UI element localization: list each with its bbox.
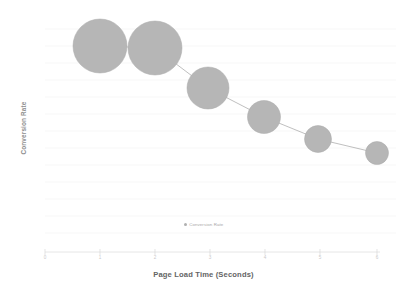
y-axis-title: Conversion Rate xyxy=(20,98,27,158)
x-axis-title: Page Load Time (Seconds) xyxy=(0,270,407,279)
x-tick-label-3: 3 xyxy=(202,255,218,260)
x-tick-label-0: 0 xyxy=(37,255,53,260)
legend-label: Conversion Rate xyxy=(189,222,223,227)
bubble-series xyxy=(73,19,389,165)
bubble-point[interactable] xyxy=(187,67,229,109)
bubble-point[interactable] xyxy=(73,19,127,73)
bubble-chart: 0 1 2 3 4 5 6 Conversion Rate Page Load … xyxy=(0,0,407,292)
x-tick-label-2: 2 xyxy=(147,255,163,260)
x-tick-label-5: 5 xyxy=(312,255,328,260)
x-tick-label-6: 6 xyxy=(369,255,385,260)
plot-area xyxy=(0,0,407,292)
bubble-point[interactable] xyxy=(128,21,182,75)
bubble-point[interactable] xyxy=(366,142,389,165)
x-tick-label-1: 1 xyxy=(92,255,108,260)
bubble-point[interactable] xyxy=(305,126,332,153)
bubble-point[interactable] xyxy=(248,101,281,134)
x-tick-label-4: 4 xyxy=(257,255,273,260)
legend-marker-icon xyxy=(184,223,187,226)
chart-legend: Conversion Rate xyxy=(0,222,407,227)
